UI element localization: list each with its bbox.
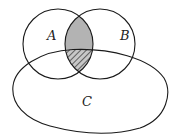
label-b: B [119,28,130,43]
label-c: C [82,94,92,109]
set-c-oval [13,49,168,133]
venn-diagram: A B C [0,0,177,137]
label-a: A [46,28,56,43]
